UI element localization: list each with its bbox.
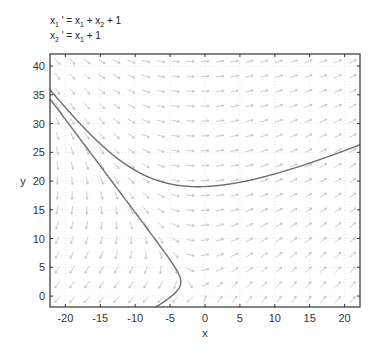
x-tick-label: -10	[127, 312, 143, 324]
field-arrow	[84, 297, 89, 303]
field-arrow	[69, 73, 74, 79]
field-arrow	[350, 282, 355, 288]
equation-line: x1 ' = x1 + x2 + 1	[50, 15, 122, 28]
x-tick-label: -5	[165, 312, 175, 324]
field-arrow	[70, 297, 75, 303]
field-arrow	[306, 282, 311, 288]
y-tick-label: 35	[33, 89, 45, 101]
field-arrow	[335, 252, 341, 257]
field-arrow	[99, 103, 105, 108]
field-arrow	[349, 223, 355, 228]
field-arrow	[129, 297, 134, 303]
field-arrow	[246, 282, 252, 288]
field-arrow	[321, 296, 326, 302]
y-tick-label: 15	[33, 204, 45, 216]
phase-plane-chart: -20-15-10-5051015200510152025303540xyx1 …	[0, 0, 379, 354]
field-arrow	[55, 297, 60, 303]
field-arrow	[320, 252, 326, 257]
field-arrow	[55, 281, 60, 287]
field-arrow	[84, 103, 89, 109]
field-arrow	[232, 282, 238, 287]
x-tick-label: 15	[304, 312, 316, 324]
field-arrow	[217, 282, 223, 287]
field-arrow	[290, 252, 296, 257]
field-arrow	[291, 282, 296, 288]
field-arrow	[232, 296, 237, 302]
field-arrow	[320, 267, 326, 273]
field-arrow	[84, 59, 90, 64]
field-arrow	[291, 267, 297, 272]
field-arrow	[335, 223, 341, 228]
field-arrow	[305, 252, 311, 257]
y-tick-label: 30	[33, 118, 45, 130]
x-tick-label: 10	[269, 312, 281, 324]
y-tick-label: 0	[39, 290, 45, 302]
y-tick-label: 5	[39, 261, 45, 273]
field-arrow	[349, 208, 355, 213]
field-arrow	[114, 148, 120, 154]
x-tick-label: 0	[202, 312, 208, 324]
field-arrow	[276, 282, 282, 288]
field-arrow	[306, 296, 311, 302]
y-tick-label: 25	[33, 146, 45, 158]
field-arrow	[276, 267, 282, 272]
field-arrow	[114, 297, 119, 303]
field-arrow	[98, 89, 104, 94]
field-arrow	[335, 296, 340, 302]
field-arrow	[143, 297, 148, 303]
y-axis-label: y	[20, 175, 26, 187]
field-arrow	[291, 296, 296, 302]
field-arrow	[247, 296, 252, 302]
y-tick-label: 20	[33, 175, 45, 187]
field-arrow	[114, 162, 119, 168]
field-arrow	[350, 252, 356, 257]
field-arrow	[320, 282, 325, 288]
field-arrow	[350, 267, 356, 273]
field-arrow	[350, 296, 355, 302]
equation-line: x2 ' = x1 + 1	[50, 30, 101, 43]
y-tick-label: 10	[33, 233, 45, 245]
field-arrow	[84, 74, 90, 79]
field-arrow	[55, 73, 60, 79]
field-arrow	[262, 296, 267, 302]
field-arrow	[113, 133, 119, 138]
x-axis-label: x	[202, 327, 208, 339]
field-arrow	[320, 223, 326, 228]
field-arrow	[129, 178, 134, 184]
field-arrow	[55, 58, 60, 64]
field-arrow	[70, 88, 75, 94]
x-tick-label: -15	[92, 312, 108, 324]
field-arrow	[158, 297, 163, 303]
field-arrow	[70, 281, 75, 287]
field-arrow	[350, 237, 356, 242]
x-tick-label: -20	[57, 312, 73, 324]
field-arrow	[84, 88, 90, 94]
field-arrow	[99, 297, 104, 303]
field-arrow	[173, 297, 179, 303]
field-arrow	[173, 252, 179, 258]
field-arrow	[246, 267, 252, 272]
field-arrow	[187, 297, 193, 302]
field-arrow	[143, 207, 148, 213]
field-arrow	[85, 281, 90, 287]
field-arrow	[84, 118, 89, 124]
y-tick-label: 40	[33, 60, 45, 72]
x-tick-label: 5	[237, 312, 243, 324]
field-arrow	[335, 267, 341, 273]
field-arrow	[143, 193, 149, 198]
field-arrow	[69, 59, 75, 65]
field-arrow	[113, 119, 119, 124]
field-arrow	[276, 296, 281, 302]
x-tick-label: 20	[339, 312, 351, 324]
field-arrow	[276, 253, 282, 258]
field-arrow	[261, 282, 267, 288]
field-arrow	[143, 178, 150, 183]
field-arrow	[99, 118, 105, 124]
field-arrow	[335, 237, 341, 242]
field-arrow	[335, 282, 340, 288]
field-arrow	[261, 267, 267, 272]
field-arrow	[305, 267, 311, 272]
field-arrow	[99, 133, 104, 139]
field-arrow	[158, 222, 164, 227]
